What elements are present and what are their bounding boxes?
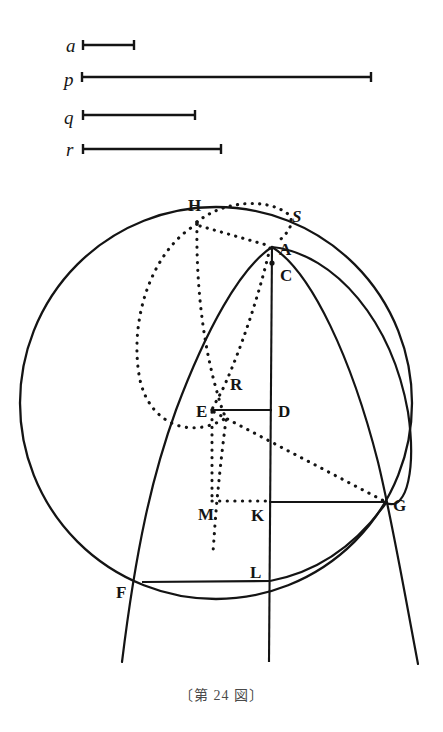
segment-q-label: q xyxy=(64,107,74,128)
segment-r-label: r xyxy=(66,139,74,160)
point-dot-E xyxy=(210,408,214,412)
left-conic-curve xyxy=(122,247,272,662)
label-point-L: L xyxy=(250,563,261,582)
figure-caption: 〔第 24 図〕 xyxy=(0,684,443,704)
label-point-G: G xyxy=(393,496,406,515)
label-point-M: M xyxy=(198,505,214,524)
label-point-E: E xyxy=(196,402,207,421)
reference-segment-q: q xyxy=(64,107,196,128)
point-dot-H xyxy=(195,220,199,224)
reference-segment-p: p xyxy=(62,69,372,90)
lower-right-arc xyxy=(270,503,386,581)
reference-segment-r: r xyxy=(66,139,222,160)
outer-right-arc xyxy=(272,247,411,504)
dotted-lower-tail xyxy=(213,420,226,552)
segment-p-label: p xyxy=(62,69,74,90)
label-point-K: K xyxy=(251,506,265,525)
label-point-R: R xyxy=(230,375,243,394)
vertical-axis-line xyxy=(269,247,272,662)
segment-a-label: a xyxy=(66,35,76,56)
label-point-F: F xyxy=(116,583,126,602)
geometry-diagram: a p q r xyxy=(0,0,443,732)
label-point-H: H xyxy=(188,196,201,215)
label-point-A: A xyxy=(279,240,292,259)
dotted-line-E-G xyxy=(214,412,384,501)
reference-segments-group: a p q r xyxy=(62,35,372,160)
dotted-line-H-A xyxy=(200,226,270,246)
figure-root: a p q r xyxy=(0,0,443,732)
point-dot-C xyxy=(269,260,274,265)
label-point-S: S xyxy=(292,207,301,226)
point-dot-G xyxy=(384,500,388,504)
reference-segment-a: a xyxy=(66,35,135,56)
label-point-C: C xyxy=(280,266,292,285)
label-point-D: D xyxy=(278,402,290,421)
